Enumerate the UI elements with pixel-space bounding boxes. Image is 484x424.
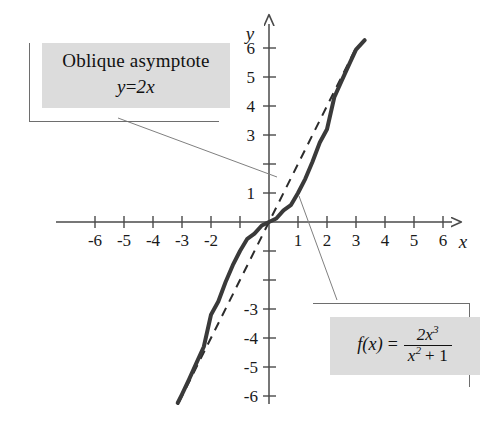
formula-relation: = xyxy=(388,334,398,354)
formula-fraction: 2x3 x2 + 1 xyxy=(404,326,452,366)
graph-figure: -6 -5 -4 -3 -2 1 2 3 4 5 6 6 5 4 3 1 -3 … xyxy=(0,0,484,424)
x-tick-label: 1 xyxy=(294,231,303,250)
y-tick-label: 5 xyxy=(247,68,256,87)
y-axis-label: y xyxy=(244,23,255,44)
x-tick-label: 2 xyxy=(323,231,332,250)
y-tick-label: -4 xyxy=(244,329,259,348)
formula-callout-frame-top xyxy=(313,303,470,304)
y-tick-label: -6 xyxy=(244,387,258,406)
equation-lhs: y xyxy=(117,76,126,97)
equation-rhs: 2x xyxy=(137,76,155,97)
equation-relation: = xyxy=(126,76,137,97)
x-tick-label: 4 xyxy=(381,231,390,250)
x-tick-label: -6 xyxy=(88,231,102,250)
oblique-asymptote-callout-title: Oblique asymptote xyxy=(62,50,209,71)
function-formula: f(x) = 2x3 x2 + 1 xyxy=(357,334,453,354)
formula-denominator: x2 + 1 xyxy=(404,345,452,365)
asymptote-callout-frame-bottom xyxy=(29,121,219,122)
y-tick-label: 4 xyxy=(247,97,256,116)
oblique-asymptote-callout: Oblique asymptote y=2x xyxy=(42,43,230,108)
formula-lhs: f(x) xyxy=(357,334,383,354)
x-tick-label: -4 xyxy=(146,231,161,250)
formula-numerator: 2x3 xyxy=(404,326,452,345)
function-formula-callout: f(x) = 2x3 x2 + 1 xyxy=(330,317,480,375)
x-tick-label: 5 xyxy=(410,231,419,250)
x-tick-label: 6 xyxy=(439,231,448,250)
x-tick-label: -2 xyxy=(204,231,218,250)
numerator-exponent: 3 xyxy=(433,323,439,335)
y-tick-label: -5 xyxy=(244,358,258,377)
x-axis-label: x xyxy=(458,231,468,252)
y-tick-label: 1 xyxy=(247,184,256,203)
y-tick-label: 3 xyxy=(247,126,256,145)
leader-line-formula xyxy=(299,196,337,300)
x-tick-label-group: -6 -5 -4 -3 -2 1 2 3 4 5 6 xyxy=(88,231,447,250)
y-tick-label: -3 xyxy=(244,300,258,319)
asymptote-callout-frame-left xyxy=(29,43,30,122)
x-tick-label: -3 xyxy=(175,231,189,250)
x-tick-label: 3 xyxy=(352,231,361,250)
oblique-asymptote-callout-equation: y=2x xyxy=(50,75,222,99)
x-tick-label: -5 xyxy=(117,231,131,250)
